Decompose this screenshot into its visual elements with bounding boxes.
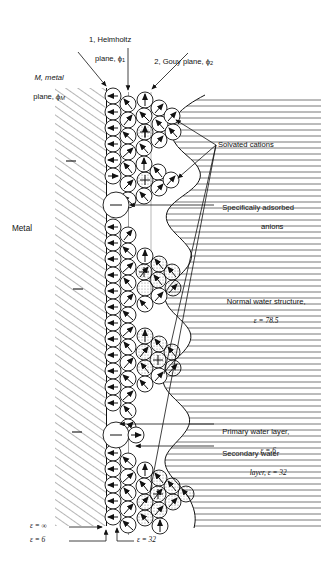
gouy-plane-label: 2, Gouy plane, ϕ2: [150, 48, 213, 69]
secondary-water-layer-label: Secondary water layer, ε = 32: [218, 440, 318, 478]
metal-label: Metal: [12, 224, 32, 233]
secondary-water-column: [120, 96, 136, 533]
epsilon-infinity-label: ε = ∞: [30, 521, 47, 530]
adsorbed-line2: anions: [222, 222, 321, 231]
metal-phase: [55, 88, 107, 526]
helmholtz-line1: 1, Helmholtz: [89, 35, 131, 44]
solvated-cations-label: Solvated cations: [218, 140, 274, 149]
double-layer-figure: 1, Helmholtz plane, ϕ1 2, Gouy plane, ϕ2…: [0, 0, 321, 561]
gouy-sub: 2: [210, 60, 213, 66]
helmholtz-sub: 1: [122, 57, 125, 63]
metal-plane-line2: plane, ϕ: [33, 92, 60, 101]
adsorbed-line1: Specifically adsorbed: [222, 203, 294, 212]
epsilon-six-label: ε = 6: [30, 535, 45, 544]
primary-water-line1: Primary water layer,: [222, 427, 289, 436]
metal-plane-line1: M, metal: [35, 73, 64, 82]
secondary-water-line2: layer, ε = 32: [222, 468, 314, 477]
helmholtz-line2: plane, ϕ: [95, 54, 122, 63]
gouy-line: 2, Gouy plane, ϕ: [154, 57, 210, 66]
water-layer: [103, 88, 194, 534]
metal-plane-sub: M: [60, 95, 65, 101]
epsilon-thirtytwo-label: ε = 32: [137, 535, 156, 544]
helmholtz-plane-label: 1, Helmholtz plane, ϕ1: [62, 26, 154, 66]
metal-plane-label: M, metal plane, ϕM: [10, 64, 84, 104]
normal-water-line1: Normal water structure,: [227, 297, 306, 306]
normal-water-structure-label: Normal water structure, ε = 78.5: [212, 288, 316, 326]
normal-water-line2: ε = 78.5: [254, 316, 279, 325]
specifically-adsorbed-anions-label: Specifically adsorbed anions: [218, 194, 318, 232]
secondary-water-line1: Secondary water: [222, 449, 279, 458]
